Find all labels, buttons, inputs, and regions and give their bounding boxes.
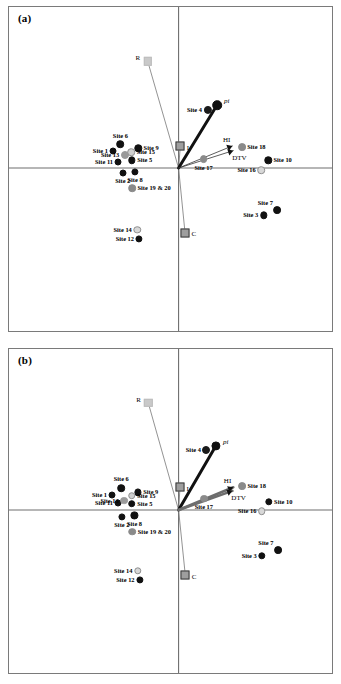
site-label: Site 11: [95, 159, 113, 165]
site-marker: [128, 500, 136, 508]
vector-lines: [148, 403, 233, 575]
site-label: Site 10: [274, 499, 292, 505]
site-label: Site 4: [186, 446, 201, 452]
site-marker: [212, 100, 222, 110]
site-label: Site 4: [187, 107, 202, 113]
site-marker: [128, 184, 136, 192]
site-label: Site 17: [194, 165, 212, 171]
vector-label-pi: pi: [224, 98, 229, 105]
site-marker: [202, 446, 210, 454]
site-label: Site 5: [137, 501, 152, 507]
vector-endpoint-square-i: [176, 142, 185, 151]
site-marker: [119, 169, 126, 176]
site-label: Site 7: [258, 539, 273, 545]
site-label: Site 15: [137, 492, 155, 498]
site-label: Site 19 & 20: [138, 529, 171, 535]
panel-a: (a) Site 1Site 2Site 3Site 4Site 5Site 6…: [8, 6, 333, 332]
vector-endpoint-square-r: [144, 57, 152, 65]
vector-endpoint-square-r: [144, 399, 152, 407]
vector-label-dtv: DTV: [232, 155, 246, 162]
panel-b-plot-area: Site 1Site 2Site 3Site 4Site 5Site 6Site…: [9, 349, 332, 673]
vector-label-r: R: [136, 55, 141, 62]
site-marker: [257, 166, 265, 174]
site-label: Site 6: [113, 133, 128, 139]
vector-label-i: I: [187, 485, 189, 492]
site-label: Site 16: [237, 167, 255, 173]
vector-label-dtv: DTV: [231, 495, 245, 502]
vector-endpoint-square-c: [181, 571, 190, 580]
site-label: Site 3: [243, 212, 258, 218]
vector-lines: [148, 61, 234, 233]
site-label: Site 15: [137, 149, 155, 155]
axes-and-vectors-layer: [9, 7, 332, 331]
vector-label-hi: HI: [223, 136, 230, 143]
vector-label-pi: pi: [223, 439, 228, 446]
vector-line-c: [179, 168, 185, 233]
vector-label-c: C: [192, 231, 197, 238]
site-marker: [115, 159, 122, 166]
site-marker: [117, 141, 125, 149]
site-marker: [117, 484, 125, 492]
site-marker: [127, 148, 135, 156]
site-marker: [120, 497, 128, 505]
site-label: Site 13: [101, 152, 119, 158]
site-marker: [200, 155, 208, 163]
site-marker: [129, 528, 137, 536]
site-marker: [273, 206, 281, 214]
site-label: Site 18: [248, 483, 266, 489]
vector-label-hi: HI: [224, 478, 231, 485]
site-label: Site 14: [114, 227, 132, 233]
panel-a-plot-area: Site 1Site 2Site 3Site 4Site 5Site 6Site…: [9, 7, 332, 331]
axis-lines: [9, 349, 332, 673]
vector-endpoint-square-c: [181, 228, 190, 237]
figure-container: (a) Site 1Site 2Site 3Site 4Site 5Site 6…: [0, 0, 341, 684]
site-marker: [258, 507, 266, 515]
site-label: Site 19 & 20: [138, 185, 171, 191]
vector-line-pi: [179, 105, 218, 168]
axes-and-vectors-layer: [9, 349, 332, 673]
vector-label-c: C: [192, 573, 197, 580]
vector-line-c: [179, 510, 186, 575]
vector-line-pi: [179, 446, 216, 510]
site-label: Site 14: [114, 568, 132, 574]
axis-lines: [9, 7, 332, 331]
site-label: Site 17: [195, 504, 213, 510]
site-label: Site 7: [258, 199, 273, 205]
site-label: Site 6: [114, 476, 129, 482]
site-marker: [274, 546, 282, 554]
site-label: Site 16: [238, 508, 256, 514]
site-marker: [128, 492, 136, 500]
site-marker: [200, 495, 208, 503]
site-label: Site 10: [274, 157, 292, 163]
site-label: Site 8: [127, 521, 142, 527]
site-label: Site 18: [247, 144, 265, 150]
site-label: Site 13: [100, 497, 118, 503]
site-label: Site 8: [128, 177, 143, 183]
site-label: Site 12: [116, 576, 134, 582]
site-label: Site 12: [116, 236, 134, 242]
site-marker: [238, 483, 246, 491]
site-label: Site 3: [242, 553, 257, 559]
site-marker: [238, 143, 246, 151]
vector-label-i: I: [187, 144, 189, 151]
panel-b: (b) Site 1Site 2Site 3Site 4Site 5Site 6…: [8, 348, 333, 674]
vector-endpoint-square-i: [176, 483, 185, 492]
site-label: Site 5: [137, 157, 152, 163]
vector-label-r: R: [136, 397, 141, 404]
